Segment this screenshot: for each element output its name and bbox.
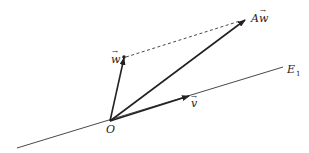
vec-accent-Aw-icon: → (260, 7, 266, 15)
dashed-connector-w-to-Aw (126, 21, 240, 57)
w-tip-dot (122, 55, 126, 59)
label-v: v → (191, 93, 198, 110)
eigenline-E1 (17, 67, 283, 148)
label-Aw-A: A (250, 12, 259, 25)
vector-v (110, 96, 189, 121)
eigenvector-diagram: w → A w → v → O E 1 (0, 0, 309, 153)
vec-accent-v-icon: → (191, 93, 197, 101)
vector-Aw (110, 20, 245, 121)
label-origin: O (106, 123, 115, 136)
vec-accent-w-icon: → (112, 48, 118, 56)
label-E1: E 1 (286, 63, 300, 78)
label-E: E (286, 63, 295, 76)
label-w: w → (111, 48, 121, 66)
label-E-subscript: 1 (296, 70, 300, 78)
label-Aw: A w → (250, 7, 269, 25)
